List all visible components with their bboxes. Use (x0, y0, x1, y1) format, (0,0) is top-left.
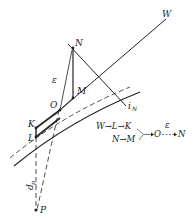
flow-row2: N→M (111, 134, 136, 144)
point-n (72, 47, 75, 50)
label-k: K (27, 119, 36, 129)
flow-merge-lower (139, 135, 143, 140)
label-l: L (27, 133, 34, 143)
label-epsilon: ε (52, 75, 57, 85)
label-o: O (50, 100, 58, 110)
flow-n-end: N (177, 129, 186, 139)
point-o (59, 109, 62, 112)
vector-diagram: N M O K L P W i N ε d p W→L→K N→M O ε N (0, 0, 194, 220)
flow-merge-upper (137, 129, 143, 134)
point-m (72, 97, 75, 100)
label-dp: d p (25, 181, 37, 190)
flow-epsilon: ε (165, 120, 170, 130)
point-p (34, 208, 37, 211)
point-k (35, 127, 38, 130)
diagram-canvas: N M O K L P W i N ε d p W→L→K N→M O ε N (0, 0, 194, 220)
label-i-sub: N (131, 105, 138, 112)
label-m: M (76, 86, 87, 96)
point-l (35, 136, 38, 139)
flow-o: O (154, 129, 161, 139)
n-in-line (68, 44, 126, 106)
flow-row1: W→L→K (96, 121, 132, 131)
svg-text:p: p (29, 181, 37, 185)
label-p: P (39, 205, 47, 215)
label-i: i (128, 101, 131, 111)
label-n: N (74, 38, 84, 48)
flow-arrowhead-n (174, 133, 177, 137)
label-w: W (162, 9, 172, 19)
k-o-line (36, 110, 60, 128)
